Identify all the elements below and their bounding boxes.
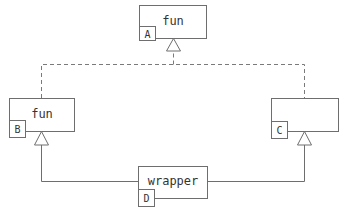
inheritance-diagram: fun A fun B C wrapper D (0, 0, 346, 212)
class-tag: B (14, 124, 20, 135)
inheritance-arrow-icon (35, 132, 49, 146)
inheritance-arrow-icon (167, 39, 181, 52)
edge-bc-to-a (42, 51, 305, 98)
class-node-d[interactable]: wrapper D (139, 167, 208, 207)
class-name: wrapper (148, 174, 199, 188)
class-tag: A (144, 29, 150, 40)
class-name: fun (162, 14, 184, 28)
class-node-a[interactable]: fun A (140, 6, 207, 41)
class-name: fun (31, 107, 53, 121)
class-tag: D (143, 193, 149, 204)
edge-d-to-b (42, 145, 139, 182)
edge-d-to-c (207, 145, 305, 182)
inheritance-arrow-icon (298, 132, 312, 146)
class-tag: C (276, 125, 282, 136)
